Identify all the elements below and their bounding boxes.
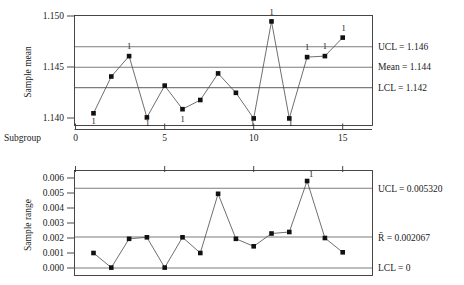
- range-marker: [340, 250, 345, 255]
- xbar-marker: [109, 74, 114, 79]
- xbar-violation-label: 1: [323, 41, 327, 51]
- range-marker: [323, 236, 328, 241]
- xbar-marker: [216, 71, 221, 76]
- xbar-marker: [91, 111, 96, 116]
- range-ytick-label-0.004: 0.004: [43, 203, 65, 213]
- xbar-marker: [180, 107, 185, 112]
- range-chart: Sample range 0.006 0.005 0.004 0.003 0.0…: [23, 166, 443, 276]
- xbar-violation-label: 1: [127, 41, 131, 51]
- xbar-marker: [198, 98, 203, 103]
- xbar-ylabel: Sample mean: [23, 46, 33, 98]
- range-ytick-label-0.006: 0.006: [43, 173, 65, 183]
- xbar-ucl-label: UCL = 1.146: [378, 42, 428, 52]
- range-marker: [305, 179, 310, 184]
- xbar-center-label: Mean = 1.144: [378, 62, 431, 72]
- range-plot-frame: [75, 171, 373, 276]
- xbar-ytick-label-1.140: 1.140: [43, 113, 65, 123]
- xbar-marker: [323, 54, 328, 59]
- xbar-ytick-label-1.145: 1.145: [43, 62, 65, 72]
- range-ytick-label-0.001: 0.001: [43, 248, 65, 258]
- range-ytick-label-0.003: 0.003: [43, 218, 65, 228]
- xbar-marker: [234, 91, 239, 96]
- range-center-label: R̄ = 0.002067: [378, 232, 430, 243]
- range-marker: [269, 231, 274, 236]
- xbar-ytick-label-1.150: 1.150: [43, 11, 65, 21]
- range-marker: [216, 192, 221, 197]
- xbar-xtick-label-15: 15: [338, 133, 348, 143]
- xbar-violation-label: 1: [341, 23, 345, 33]
- xbar-marker: [162, 83, 167, 88]
- xbar-lcl-label: LCL = 1.142: [378, 83, 427, 93]
- xbar-marker: [305, 55, 310, 60]
- range-marker: [162, 265, 167, 270]
- xbar-violation-label: 1: [180, 114, 184, 124]
- range-ytick-label-0.005: 0.005: [43, 188, 65, 198]
- xbar-xtick-label-10: 10: [249, 133, 259, 143]
- xbar-xtick-label-5: 5: [162, 133, 167, 143]
- range-marker: [145, 235, 150, 240]
- xbar-marker: [127, 54, 132, 59]
- range-ylabel: Sample range: [23, 199, 33, 251]
- range-lcl-label: LCL = 0: [378, 263, 411, 273]
- range-ytick-label-0.000: 0.000: [43, 263, 65, 273]
- range-marker: [109, 265, 114, 270]
- range-marker: [91, 251, 96, 256]
- range-marker: [127, 237, 132, 242]
- xbar-violation-label: 1: [269, 7, 273, 17]
- range-marker: [234, 237, 239, 242]
- range-marker: [198, 251, 203, 256]
- xbar-series-line: [94, 21, 343, 118]
- xbar-marker: [269, 19, 274, 24]
- xbar-violation-label: 1: [288, 118, 292, 128]
- xbar-plot-frame: [75, 16, 373, 126]
- range-marker: [251, 244, 256, 249]
- xbar-xtick-label-0: 0: [73, 133, 78, 143]
- control-chart-figure: Sample mean 1.150 1.145 1.140: [0, 0, 464, 285]
- xbar-marker: [340, 35, 345, 40]
- xbar-violation-label: 1: [305, 42, 309, 52]
- xbar-xlabel: Subgroup: [4, 133, 41, 143]
- range-marker: [287, 230, 292, 235]
- range-violation-label: 1: [309, 169, 313, 179]
- range-marker: [180, 235, 185, 240]
- figure-svg: Sample mean 1.150 1.145 1.140: [0, 0, 464, 285]
- xbar-chart: Sample mean 1.150 1.145 1.140: [4, 7, 431, 143]
- range-ucl-label: UCL = 0.005320: [378, 184, 443, 194]
- range-ytick-label-0.002: 0.002: [43, 233, 65, 243]
- xbar-violation-label: 1: [91, 116, 95, 126]
- xbar-violation-label: 1: [145, 118, 149, 128]
